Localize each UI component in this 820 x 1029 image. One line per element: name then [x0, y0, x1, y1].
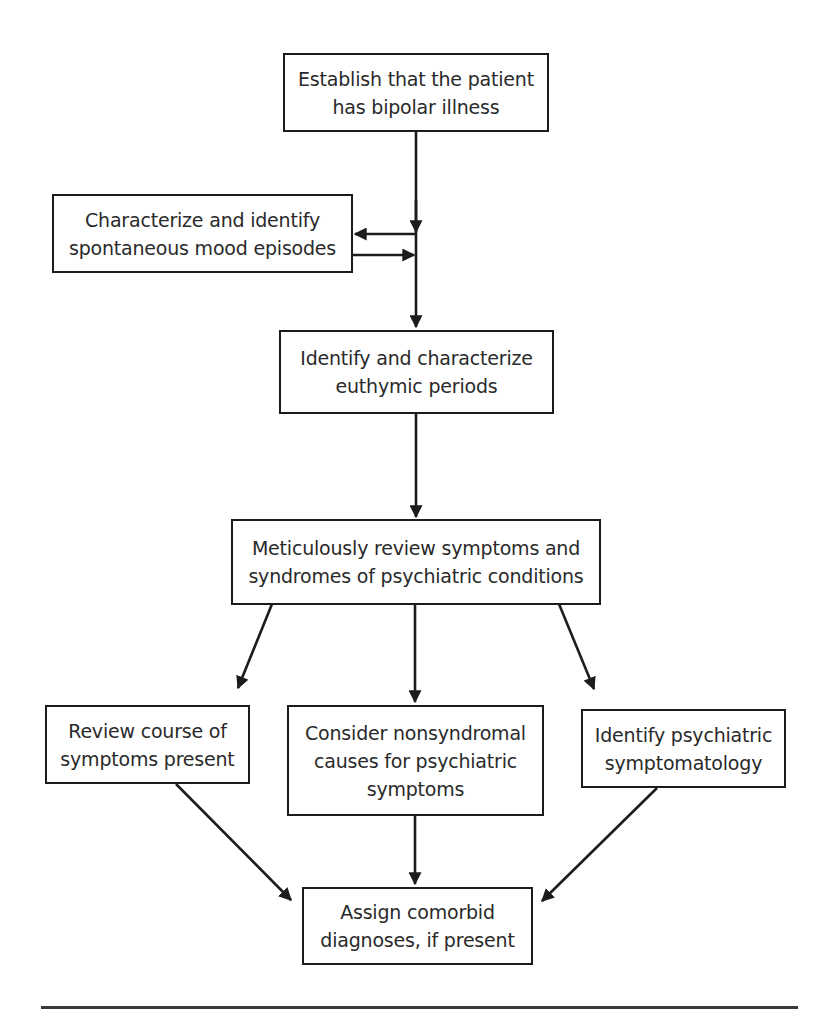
- node-review-symptoms: Meticulously review symptoms and syndrom…: [231, 519, 601, 605]
- node-identify-symptomatology: Identify psychiatric symptomatology: [581, 709, 786, 788]
- node-text-line: Characterize and identify: [69, 206, 336, 234]
- node-text-line: Consider nonsyndromal: [305, 719, 526, 747]
- arrow-review-to-course: [238, 604, 272, 688]
- node-characterize-episodes: Characterize and identify spontaneous mo…: [52, 194, 353, 273]
- node-review-course: Review course of symptoms present: [45, 705, 250, 784]
- node-assign-comorbid: Assign comorbid diagnoses, if present: [302, 887, 533, 965]
- node-text-line: causes for psychiatric: [305, 747, 526, 775]
- node-text-line: Establish that the patient: [298, 65, 534, 93]
- arrow-course-to-assign: [176, 784, 291, 900]
- node-text-line: euthymic periods: [300, 372, 532, 400]
- node-text-line: Identify and characterize: [300, 344, 532, 372]
- arrow-review-to-symptomatology: [559, 604, 594, 689]
- bottom-rule-divider: [41, 1006, 798, 1009]
- node-text-line: spontaneous mood episodes: [69, 234, 336, 262]
- arrow-symptomatology-to-assign: [542, 788, 657, 901]
- node-text-line: Review course of: [60, 717, 234, 745]
- node-text-line: Assign comorbid: [320, 898, 514, 926]
- node-text-line: symptoms: [305, 775, 526, 803]
- node-establish-bipolar: Establish that the patient has bipolar i…: [283, 53, 549, 132]
- flowchart-connectors: [0, 0, 820, 1029]
- node-nonsyndromal-causes: Consider nonsyndromal causes for psychia…: [287, 705, 544, 816]
- node-text-line: symptoms present: [60, 745, 234, 773]
- node-text-line: Meticulously review symptoms and: [248, 534, 583, 562]
- node-text-line: has bipolar illness: [298, 93, 534, 121]
- node-text-line: symptomatology: [595, 749, 772, 777]
- node-text-line: diagnoses, if present: [320, 926, 514, 954]
- node-text-line: syndromes of psychiatric conditions: [248, 562, 583, 590]
- node-euthymic-periods: Identify and characterize euthymic perio…: [279, 330, 554, 414]
- node-text-line: Identify psychiatric: [595, 721, 772, 749]
